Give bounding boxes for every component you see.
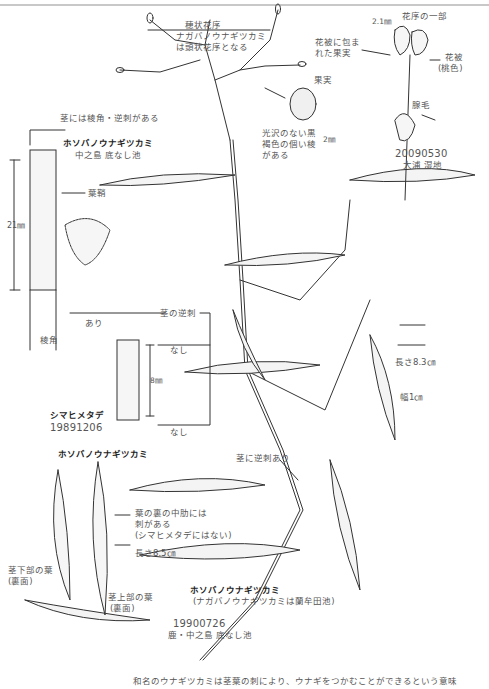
absent-bottom: なし <box>170 427 188 438</box>
fruit-title: 果実 <box>314 75 332 86</box>
main-specimen-note: (ナガバノウナギツカミは蘭牟田池) <box>193 596 335 607</box>
midrib-line2: 刺がある <box>135 519 171 530</box>
fruit-desc-line1: 光沢のない黒 <box>262 128 316 139</box>
absent-top: なし <box>170 345 188 356</box>
leaves-detail-species: ホソバノウナギツカミ <box>58 449 148 460</box>
stem-barbs-label: 茎に逆刺あり <box>236 453 290 464</box>
main-specimen-location: 鹿・中之島 底なし池 <box>168 630 252 641</box>
ridge-label: 稜角 <box>40 335 58 346</box>
fruit-in-perianth-line1: 花被に包ま <box>315 37 360 48</box>
stem-detail-species: ホソバノウナギツカミ <box>63 138 153 149</box>
upper-leaf-line2: (裏面) <box>110 603 135 614</box>
comparison-length: 8㎜ <box>150 375 162 386</box>
barbs-label: 茎の逆刺 <box>160 308 196 319</box>
stem-detail-location: 中之島 底なし池 <box>75 150 141 161</box>
perianth-color: (桃色) <box>438 63 463 74</box>
fruit-measure: 2㎜ <box>323 134 335 145</box>
leaf-length: 長さ8.5㎝ <box>135 548 176 559</box>
inflorescence-note-line1: ナガバノウナギツカミ <box>176 31 266 42</box>
sheath-length: 21㎜ <box>7 220 25 231</box>
fruit-in-perianth-line2: れた果実 <box>315 48 351 59</box>
main-leaf-length: 長さ8.3㎝ <box>395 357 436 368</box>
inflorescence-label: 穂状花序 <box>185 20 221 31</box>
lower-leaf-line1: 茎下部の葉 <box>8 565 53 576</box>
main-specimen-date: 19900726 <box>173 618 226 629</box>
glandular-hair-label: 腺毛 <box>412 100 430 111</box>
lower-leaf-line2: (裏面) <box>8 576 33 587</box>
midrib-line1: 葉の裏の中肋には <box>135 508 207 519</box>
flower-date: 20090530 <box>395 148 448 159</box>
figure-caption: 和名のウナギツカミは茎葉の刺により、ウナギをつかむことができるという意味 <box>133 676 457 687</box>
main-specimen-species: ホソバノウナギツカミ <box>190 585 280 596</box>
upper-leaf-line1: 茎上部の葉 <box>108 592 153 603</box>
fruit-desc-line2: 褐色の個い稜 <box>262 139 316 150</box>
comparison-species: シマヒメタデ <box>50 410 104 421</box>
perianth-label: 花被 <box>445 52 463 63</box>
inflorescence-note-line2: は頭状花序となる <box>176 42 248 53</box>
barbs-present: あり <box>85 318 103 329</box>
stem-top-note: 茎には稜角・逆刺がある <box>60 113 159 124</box>
midrib-line3: (シマヒメタデにはない) <box>135 530 232 541</box>
flower-measure: 2.1㎜ <box>372 16 391 27</box>
main-leaf-width: 幅1㎝ <box>400 392 423 403</box>
sheath-label: 葉鞘 <box>88 188 106 199</box>
fruit-desc-line3: がある <box>262 150 289 161</box>
comparison-date: 19891206 <box>50 422 103 433</box>
flower-detail-title: 花序の一部 <box>402 11 447 22</box>
flower-location: 大浦 湿地 <box>403 160 442 171</box>
